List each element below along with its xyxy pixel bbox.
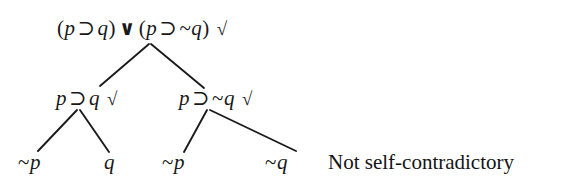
branch-line-left-to-leaf2	[80, 110, 109, 152]
left-branch-horseshoe-icon: ⊃	[67, 86, 89, 110]
right-branch-tilde-icon: ~	[212, 86, 224, 110]
root-open-paren: (	[57, 16, 65, 40]
branch-line-right-to-leaf4	[210, 110, 296, 151]
leaf2-atom: q	[104, 150, 115, 174]
root-left-horseshoe-icon: ⊃	[76, 16, 98, 40]
root-right-q: q	[191, 16, 202, 40]
branch-line-right-to-leaf3	[184, 110, 207, 152]
leaf3-atom: p	[174, 150, 185, 174]
verdict-label: Not self-contradictory	[328, 152, 514, 173]
left-branch-check-icon: √	[100, 88, 118, 109]
right-branch-q: q	[224, 86, 235, 110]
leaf1-atom: p	[30, 150, 41, 174]
tree-leaf-node-3: ~p	[162, 152, 185, 173]
root-wedge-icon: ∨	[116, 17, 139, 39]
right-branch-horseshoe-icon: ⊃	[190, 86, 212, 110]
right-branch-p: p	[179, 86, 190, 110]
tree-node-left-branch: p⊃q√	[56, 88, 118, 109]
tree-leaf-node-2: q	[104, 152, 115, 173]
tree-node-root: (p⊃q)∨(p⊃~q)√	[57, 18, 228, 39]
root-right-horseshoe-icon: ⊃	[157, 16, 179, 40]
branch-line-root-left	[100, 44, 149, 86]
tree-node-right-branch: p⊃~q√	[179, 88, 253, 109]
root-left-close-paren: )	[109, 16, 117, 40]
left-branch-q: q	[89, 86, 100, 110]
root-left-p: p	[65, 16, 76, 40]
root-left-q: q	[98, 16, 109, 40]
right-branch-check-icon: √	[235, 88, 253, 109]
root-check-icon: √	[210, 18, 228, 39]
leaf4-atom: q	[277, 150, 288, 174]
root-close-paren: )	[202, 16, 210, 40]
left-branch-p: p	[56, 86, 67, 110]
branch-line-root-right	[151, 44, 204, 88]
root-right-tilde-icon: ~	[179, 16, 191, 40]
leaf4-tilde-icon: ~	[265, 150, 277, 174]
leaf3-tilde-icon: ~	[162, 150, 174, 174]
truth-tree-diagram: (p⊃q)∨(p⊃~q)√ p⊃q√ p⊃~q√ ~p q ~p ~q Not …	[0, 0, 564, 194]
root-right-p: p	[146, 16, 157, 40]
leaf1-tilde-icon: ~	[18, 150, 30, 174]
tree-leaf-node-1: ~p	[18, 152, 41, 173]
branch-line-left-to-leaf1	[38, 110, 77, 151]
tree-leaf-node-4: ~q	[265, 152, 288, 173]
